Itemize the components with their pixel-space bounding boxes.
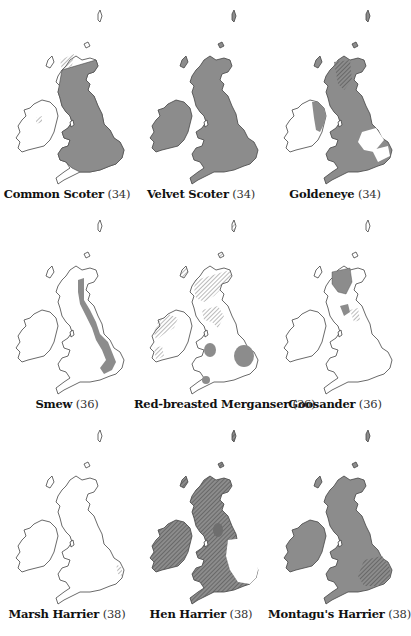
map-caption: Common Scoter (34) [0,187,134,201]
map-panel-velvet-scoter: Velvet Scoter (34) [134,0,268,212]
species-name: Marsh Harrier [9,607,100,621]
map-panel-goosander: Goosander (36) [268,210,402,422]
page-reference: (34) [232,187,255,201]
species-name: Montagu's Harrier [268,607,385,621]
map-caption: Goldeneye (34) [268,187,402,201]
species-name: Common Scoter [4,187,104,201]
map-panel-red-breasted-merganser: Red-breasted Merganser (36) [134,210,268,422]
distribution-map-smew [0,210,134,400]
species-name: Goosander [288,397,355,411]
species-name: Goldeneye [289,187,354,201]
map-caption: Velvet Scoter (34) [134,187,268,201]
species-name: Hen Harrier [150,607,227,621]
distribution-map-common-scoter [0,0,134,190]
species-name: Smew [35,397,72,411]
map-caption: Montagu's Harrier (38) [268,607,402,621]
page-reference: (34) [358,187,381,201]
map-panel-common-scoter: Common Scoter (34) [0,0,134,212]
page-reference: (36) [359,397,382,411]
page-reference: (36) [76,397,99,411]
species-name: Red-breasted Merganser [134,397,289,411]
page-reference: (38) [388,607,411,621]
page-reference: (34) [107,187,130,201]
map-panel-smew: Smew (36) [0,210,134,422]
map-caption: Marsh Harrier (38) [0,607,134,621]
distribution-map-red-breasted-merganser [134,210,268,400]
map-caption: Hen Harrier (38) [134,607,268,621]
distribution-map-montagus-harrier [268,420,402,610]
distribution-map-marsh-harrier [0,420,134,610]
distribution-map-goldeneye [268,0,402,190]
distribution-map-goosander [268,210,402,400]
page-reference: (38) [230,607,253,621]
map-caption: Red-breasted Merganser (36) [134,397,268,411]
map-panel-goldeneye: Goldeneye (34) [268,0,402,212]
map-caption: Smew (36) [0,397,134,411]
distribution-map-velvet-scoter [134,0,268,190]
page-reference: (38) [103,607,126,621]
map-panel-hen-harrier: Hen Harrier (38) [134,420,268,632]
map-panel-montagus-harrier: Montagu's Harrier (38) [268,420,402,632]
map-panel-marsh-harrier: Marsh Harrier (38) [0,420,134,632]
distribution-map-hen-harrier [134,420,268,610]
species-name: Velvet Scoter [147,187,229,201]
map-caption: Goosander (36) [268,397,402,411]
